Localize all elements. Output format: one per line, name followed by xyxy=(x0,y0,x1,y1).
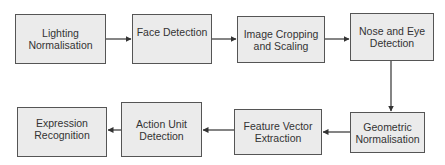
node-image-cropping-scaling: Image Cropping and Scaling xyxy=(237,16,325,63)
node-label: Image Cropping and Scaling xyxy=(241,28,321,52)
node-label: Nose and Eye Detection xyxy=(354,25,430,49)
node-label: Action Unit Detection xyxy=(125,118,198,142)
node-action-unit-detection: Action Unit Detection xyxy=(121,102,202,157)
node-label: Lighting Normalisation xyxy=(19,27,102,51)
node-label: Feature Vector Extraction xyxy=(238,120,318,144)
node-feature-vector-extraction: Feature Vector Extraction xyxy=(234,109,322,155)
node-label: Face Detection xyxy=(137,26,208,38)
node-geometric-normalisation: Geometric Normalisation xyxy=(350,112,425,153)
node-lighting-normalisation: Lighting Normalisation xyxy=(15,14,106,64)
node-label: Expression Recognition xyxy=(21,117,103,141)
node-nose-eye-detection: Nose and Eye Detection xyxy=(350,13,434,61)
node-expression-recognition: Expression Recognition xyxy=(17,107,107,157)
node-label: Geometric Normalisation xyxy=(354,121,421,145)
node-face-detection: Face Detection xyxy=(132,14,212,64)
